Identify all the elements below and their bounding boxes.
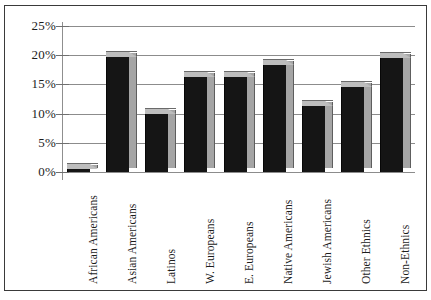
bar-top-edge [224, 71, 255, 72]
x-axis-label: E. Europeans [243, 221, 255, 284]
y-tick-label: 10% [4, 107, 56, 120]
bar-side-face [247, 73, 255, 168]
x-axis-label: Other Ethnics [360, 219, 372, 284]
y-tick-mark [56, 55, 69, 56]
bar-front-face [184, 77, 207, 172]
bar-body [145, 109, 168, 172]
bar-side-face [364, 83, 372, 168]
bar-body [380, 53, 403, 172]
y-tick-mark [56, 143, 69, 144]
bar-front-face [67, 169, 90, 172]
bar-side-face [129, 53, 137, 168]
y-tick-label: 15% [4, 77, 56, 90]
bar[interactable] [67, 26, 90, 172]
y-tick-mark [56, 114, 69, 115]
bar[interactable] [302, 26, 325, 172]
x-axis-label: Native Americans [282, 200, 294, 284]
bar-chart-figure: 0%5%10%15%20%25% African AmericansAsian … [0, 0, 431, 300]
y-tick-mark [56, 26, 69, 27]
bar-top-edge [145, 108, 176, 109]
bar-body [106, 52, 129, 172]
bar-front-face [302, 106, 325, 172]
bar-top-face [224, 72, 255, 77]
bar[interactable] [106, 26, 129, 172]
bar-top-edge [67, 163, 98, 164]
x-axis-label: Non-Ethnics [399, 225, 411, 284]
bar-top-edge [106, 51, 137, 52]
bar[interactable] [341, 26, 364, 172]
bar-side-face [207, 73, 215, 168]
bar-body [224, 72, 247, 172]
bar[interactable] [184, 26, 207, 172]
bar-top-face [380, 53, 411, 58]
bar[interactable] [224, 26, 247, 172]
bar-top-edge [263, 59, 294, 60]
bar-body [341, 82, 364, 172]
bar-front-face [106, 57, 129, 172]
x-axis-label: African Americans [87, 195, 99, 284]
bar-body [67, 164, 90, 172]
bar-front-face [224, 77, 247, 172]
y-tick-mark [56, 84, 69, 85]
bar-side-face [168, 110, 176, 168]
bar-top-face [263, 60, 294, 65]
x-axis-label: Asian Americans [126, 204, 138, 284]
bar-side-face [286, 61, 294, 168]
gridline-0 [63, 172, 415, 173]
bar-top-face [341, 82, 372, 87]
bar-top-face [184, 72, 215, 77]
x-axis-category-labels: African AmericansAsian AmericansLatinosW… [63, 176, 415, 288]
bar[interactable] [263, 26, 286, 172]
bar-top-edge [380, 52, 411, 53]
bar-top-edge [302, 100, 333, 101]
bar-body [184, 72, 207, 172]
figure-border-top [4, 5, 427, 6]
y-tick-mark [56, 172, 69, 173]
bar-body [302, 101, 325, 172]
x-axis-label: Latinos [165, 249, 177, 284]
figure-border-right [426, 5, 427, 291]
x-axis-label: Jewish Americans [321, 199, 333, 284]
bar-top-face [106, 52, 137, 57]
bar-top-face [67, 164, 98, 169]
bar-top-face [302, 101, 333, 106]
y-tick-label: 5% [4, 136, 56, 149]
bar-front-face [145, 114, 168, 172]
x-axis-label: W. Europeans [204, 219, 216, 284]
bar-body [263, 60, 286, 172]
y-tick-label: 25% [4, 19, 56, 32]
figure-border-bottom [4, 290, 427, 291]
bar-top-edge [341, 81, 372, 82]
plot-area [63, 26, 415, 172]
bar-side-face [403, 54, 411, 168]
bar[interactable] [145, 26, 168, 172]
bar-front-face [263, 65, 286, 172]
bar-front-face [380, 58, 403, 172]
bar-side-face [325, 102, 333, 168]
bar-top-edge [184, 71, 215, 72]
y-tick-label: 20% [4, 48, 56, 61]
bar-top-face [145, 109, 176, 114]
bar[interactable] [380, 26, 403, 172]
y-axis-tick-labels: 0%5%10%15%20%25% [0, 0, 56, 300]
y-tick-label: 0% [4, 165, 56, 178]
bar-front-face [341, 87, 364, 172]
